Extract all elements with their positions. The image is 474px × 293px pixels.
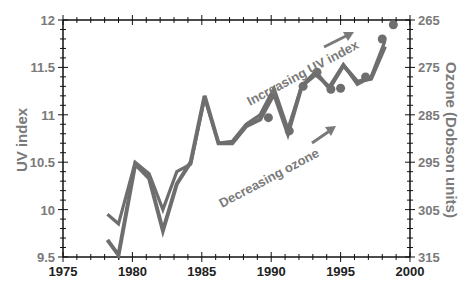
data-marker (264, 113, 273, 122)
y-tick-label-left: 12 (41, 13, 55, 28)
y-tick-label-right: 295 (418, 155, 440, 170)
y-tick-label-right: 315 (418, 250, 440, 265)
x-tick-label: 1985 (187, 264, 216, 279)
y-axis-title-right: Ozone (Dobson units) (443, 62, 460, 218)
x-tick-label: 1980 (118, 264, 147, 279)
y-tick-label-right: 285 (418, 108, 440, 123)
y-tick-label-right: 265 (418, 13, 440, 28)
data-marker (389, 20, 398, 29)
y-tick-label-left: 9.5 (37, 250, 55, 265)
y-tick-label-left: 11 (41, 108, 55, 123)
data-marker (299, 82, 308, 91)
y-tick-label-left: 10.5 (30, 155, 55, 170)
uv-ozone-chart: 1975198019851990199520009.51010.51111.51… (0, 0, 474, 293)
x-tick-label: 1995 (326, 264, 355, 279)
annotation-increasing-uv: Increasing UV index (244, 37, 361, 109)
data-marker (378, 34, 387, 43)
y-tick-label-left: 11.5 (30, 60, 55, 75)
y-tick-label-right: 275 (418, 60, 440, 75)
arrow-icon (312, 130, 331, 143)
x-tick-label: 2000 (396, 264, 425, 279)
data-series (107, 20, 397, 255)
data-marker (326, 85, 335, 94)
x-tick-label: 1990 (257, 264, 286, 279)
y-tick-label-left: 10 (41, 203, 55, 218)
data-marker (361, 72, 370, 81)
y-tick-label-right: 305 (418, 203, 440, 218)
uv-index-line (107, 47, 385, 256)
annotation-decreasing-ozone: Decreasing ozone (216, 145, 321, 210)
tick-labels: 1975198019851990199520009.51010.51111.51… (30, 13, 440, 279)
data-marker (285, 126, 294, 135)
data-marker (336, 84, 345, 93)
y-axis-title-left: UV index (13, 107, 30, 172)
x-tick-label: 1975 (49, 264, 78, 279)
